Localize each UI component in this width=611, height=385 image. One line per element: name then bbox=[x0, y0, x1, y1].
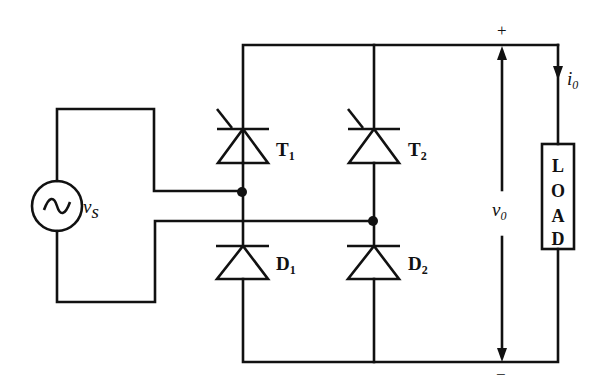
diode-d1-triangle-icon bbox=[217, 246, 268, 279]
diode-d1 bbox=[216, 246, 269, 279]
circuit-diagram: vs T1 T2 D1 D2 bbox=[0, 0, 611, 385]
load-letter-a: A bbox=[552, 206, 565, 226]
source-wires bbox=[57, 109, 373, 302]
diode-d2-label: D2 bbox=[408, 253, 428, 277]
top-rail-wire bbox=[243, 45, 558, 163]
load-letter-l: L bbox=[552, 156, 564, 176]
output-voltage-label: v0 bbox=[492, 199, 506, 223]
arrow-up-icon bbox=[497, 46, 507, 60]
sine-wave-icon bbox=[44, 199, 70, 213]
output-current-label: i0 bbox=[567, 68, 578, 92]
thyristor-t1-gate bbox=[217, 109, 232, 128]
diode-d2-triangle-icon bbox=[348, 246, 399, 279]
ac-source bbox=[32, 181, 82, 231]
junction-dot-right bbox=[368, 216, 378, 226]
plus-sign: + bbox=[497, 21, 507, 40]
junction-dot-left bbox=[237, 187, 247, 197]
thyristor-t2-gate bbox=[348, 109, 363, 128]
thyristor-t2-label: T2 bbox=[408, 139, 427, 163]
source-top-wire bbox=[57, 109, 242, 191]
thyristor-t1-label: T1 bbox=[276, 139, 295, 163]
load-letter-o: O bbox=[551, 181, 565, 201]
current-arrow-icon bbox=[553, 66, 563, 80]
load-letter-d: D bbox=[552, 229, 565, 249]
thyristor-t2-triangle-icon bbox=[349, 129, 399, 163]
arrow-down-icon bbox=[497, 348, 507, 362]
source-bottom-wire bbox=[57, 221, 373, 302]
minus-sign: − bbox=[496, 365, 506, 384]
diode-d1-label: D1 bbox=[276, 253, 296, 277]
diode-d2 bbox=[347, 246, 400, 279]
bridge-left-leg bbox=[243, 45, 558, 362]
source-label: vs bbox=[83, 196, 99, 222]
